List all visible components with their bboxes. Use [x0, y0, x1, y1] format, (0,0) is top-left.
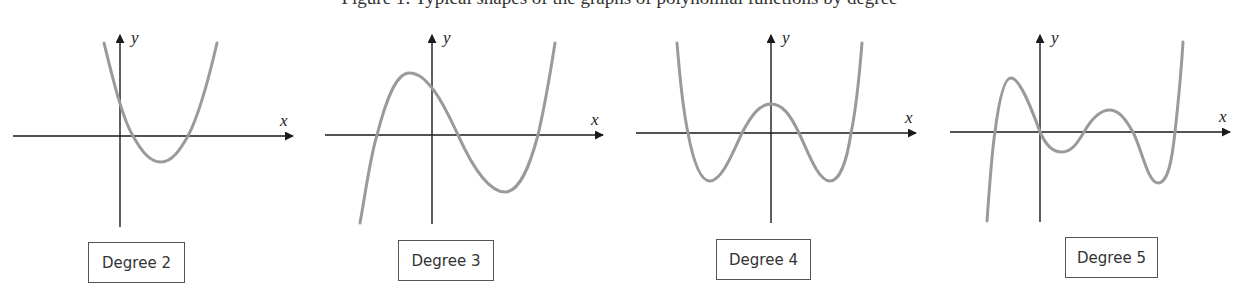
- x-axis-label: x: [590, 110, 599, 129]
- degree-label-box: Degree 4: [716, 239, 811, 280]
- polynomial-graphs-figure: x y x y x y x y: [0, 0, 1239, 300]
- degree-label-box: Degree 3: [398, 240, 494, 281]
- panel-degree-2: x y: [13, 28, 293, 227]
- degree-label-box: Degree 5: [1065, 237, 1158, 278]
- panel-degree-4: x y: [636, 28, 916, 223]
- degree-label-box: Degree 2: [88, 242, 185, 283]
- y-axis-label: y: [1049, 28, 1059, 47]
- panel-degree-3: x y: [325, 28, 603, 224]
- x-axis-label: x: [1218, 107, 1227, 126]
- y-axis-label: y: [441, 28, 451, 47]
- y-axis-label: y: [129, 28, 139, 47]
- y-axis-label: y: [780, 28, 790, 47]
- x-axis-label: x: [904, 108, 913, 127]
- polynomial-curve: [677, 43, 862, 181]
- x-axis-label: x: [279, 111, 288, 130]
- polynomial-curve: [360, 43, 555, 223]
- polynomial-curve: [104, 43, 217, 162]
- panel-degree-5: x y: [950, 28, 1230, 222]
